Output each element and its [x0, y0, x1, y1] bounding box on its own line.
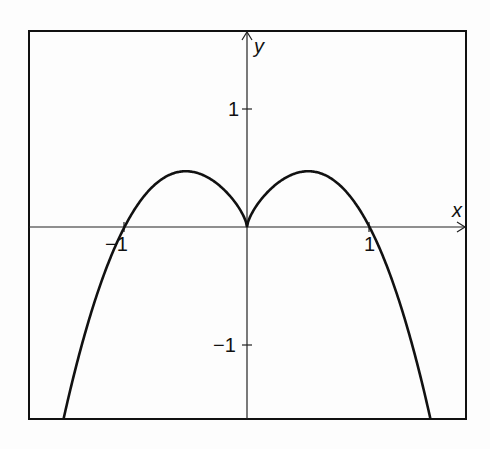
- x-tick-label-1: 1: [364, 234, 375, 254]
- y-axis-label: y: [254, 36, 264, 56]
- x-tick-label-neg1: −1: [105, 234, 128, 254]
- plot-area: [0, 0, 490, 449]
- y-tick-label-1: 1: [228, 99, 239, 119]
- x-axis-label: x: [452, 200, 462, 220]
- y-tick-label-neg1: −1: [213, 335, 236, 355]
